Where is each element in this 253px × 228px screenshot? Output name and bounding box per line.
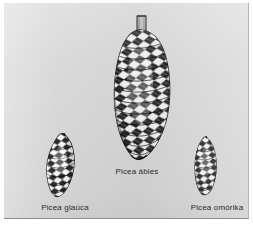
species-label-glauca: Picea glaúca <box>22 203 108 213</box>
botanical-figure: Picea glaúca Picea ábies Picea omórika <box>0 0 253 228</box>
spruce-cone-abies-illustration <box>104 14 180 166</box>
species-label-omorika: Picea omórika <box>174 203 253 213</box>
spruce-cone-glauca-illustration <box>42 133 82 199</box>
spruce-cone-omorika-illustration <box>189 136 223 198</box>
illustration-plate <box>4 3 249 219</box>
species-label-abies: Picea ábies <box>94 167 180 177</box>
